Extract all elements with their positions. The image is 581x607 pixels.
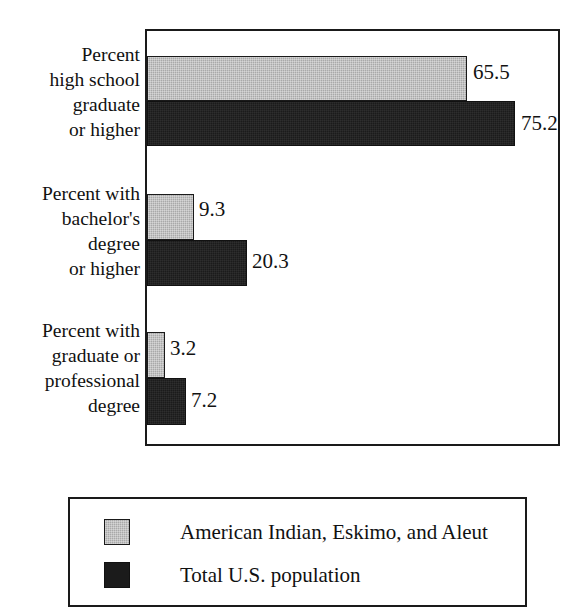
chart-legend: American Indian, Eskimo, and Aleut Total…: [68, 497, 527, 607]
bar-series-a-category-1: [147, 194, 194, 240]
bar-series-b-category-0: [147, 101, 515, 146]
value-label-series-a-category-0: 65.5: [473, 62, 510, 83]
legend-entry-1: Total U.S. population: [104, 562, 361, 588]
bar-series-a-category-0: [147, 56, 467, 101]
bar-series-b-category-1: [147, 240, 247, 286]
legend-entry-0: American Indian, Eskimo, and Aleut: [104, 519, 488, 545]
value-label-series-b-category-0: 75.2: [521, 113, 558, 134]
value-label-series-b-category-1: 20.3: [252, 251, 289, 272]
value-label-series-b-category-2: 7.2: [191, 390, 217, 411]
legend-label-american-indian-eskimo-aleut: American Indian, Eskimo, and Aleut: [180, 522, 488, 543]
category-label-2: Percent with graduate or professional de…: [2, 318, 140, 418]
legend-swatch-american-indian-eskimo-aleut: [104, 519, 130, 545]
bar-series-a-category-2: [147, 332, 165, 378]
legend-label-total-us-population: Total U.S. population: [180, 565, 361, 586]
category-label-1: Percent with bachelor's degree or higher: [2, 181, 140, 281]
category-label-0: Percent high school graduate or higher: [2, 42, 140, 142]
value-label-series-a-category-2: 3.2: [170, 338, 196, 359]
bar-series-b-category-2: [147, 378, 186, 425]
value-label-series-a-category-1: 9.3: [199, 199, 225, 220]
legend-swatch-total-us-population: [104, 562, 130, 588]
